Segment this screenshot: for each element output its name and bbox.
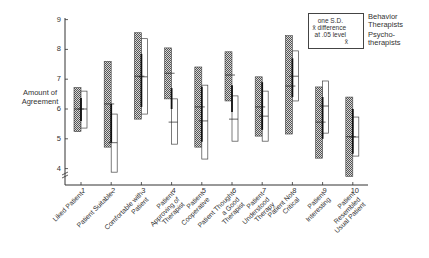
legend: one S.D. x̄ difference at .05 level x̄ [308, 13, 364, 49]
behavior-sd-box [74, 88, 81, 132]
behavior-sd-box [225, 52, 232, 101]
category-group [225, 52, 238, 141]
y-tick-label: 9 [51, 15, 61, 24]
legend-diff-label-1: x̄ difference [310, 24, 346, 31]
legend-diff-label-2: at .05 level [310, 31, 346, 38]
behavior-sd-box [316, 87, 323, 158]
category-group [134, 33, 147, 119]
boxes [74, 33, 359, 177]
y-tick-label: 6 [51, 104, 61, 113]
legend-sd-label: one S.D. [311, 17, 343, 24]
category-group [285, 36, 298, 134]
category-group [255, 77, 268, 141]
category-group [316, 81, 329, 158]
category-group [195, 67, 208, 159]
category-group [104, 61, 117, 172]
y-tick-label: 7 [51, 74, 61, 83]
legend-series-psycho-2: therapists [368, 39, 401, 47]
category-group [165, 48, 178, 144]
behavior-sd-box [255, 77, 262, 136]
behavior-sd-box [285, 36, 292, 134]
legend-mean-label: x̄ [311, 38, 348, 45]
y-tick-label: 8 [51, 44, 61, 53]
category-group [74, 88, 87, 132]
legend-series-behavior-2: Therapists [368, 21, 403, 29]
y-tick-label: 4 [51, 164, 61, 173]
category-group [346, 97, 359, 176]
y-tick-label: 5 [51, 134, 61, 143]
